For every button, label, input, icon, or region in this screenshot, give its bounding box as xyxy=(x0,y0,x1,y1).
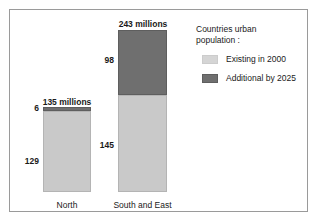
bar-group-south-and-east: 243 millions 98 145 South and East xyxy=(118,0,167,223)
chart-legend: Countries urban population : Existing in… xyxy=(196,24,314,92)
legend-title: Countries urban population : xyxy=(196,24,314,46)
bar-segment-value-north-existing: 129 xyxy=(16,156,39,166)
stacked-bar-north[interactable] xyxy=(43,107,91,192)
legend-item-existing-in-2000[interactable]: Existing in 2000 xyxy=(202,54,314,64)
category-label-south-and-east: South and East xyxy=(90,200,195,210)
legend-item-additional-by-2025[interactable]: Additional by 2025 xyxy=(202,73,314,83)
bar-segment-north-existing[interactable] xyxy=(43,111,91,192)
bar-total-label-south-and-east: 243 millions xyxy=(105,19,181,29)
chart-figure: 135 millions 6 129 North 243 millions 98 xyxy=(0,0,320,223)
plot-area: 135 millions 6 129 North 243 millions 98 xyxy=(0,0,195,223)
bar-segment-value-south-and-east-existing: 145 xyxy=(91,140,114,150)
bar-segment-value-south-and-east-additional: 98 xyxy=(94,55,114,65)
bar-group-north: 135 millions 6 129 North xyxy=(43,0,91,223)
bar-segment-south-and-east-existing[interactable] xyxy=(118,95,167,192)
bar-segment-value-north-additional: 6 xyxy=(21,103,39,113)
bar-total-label-north: 135 millions xyxy=(29,97,105,107)
light-gray-swatch-icon xyxy=(202,55,218,64)
legend-item-label: Additional by 2025 xyxy=(226,73,296,83)
legend-item-label: Existing in 2000 xyxy=(226,54,286,64)
dark-gray-swatch-icon xyxy=(202,74,218,83)
bar-segment-south-and-east-additional[interactable] xyxy=(118,30,167,95)
stacked-bar-south-and-east[interactable] xyxy=(118,30,167,192)
